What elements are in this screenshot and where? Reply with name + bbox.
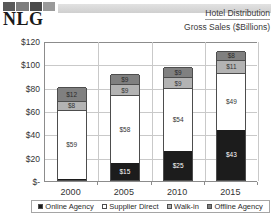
segment-value-label: $59 — [66, 141, 77, 148]
segment-value-label: $9 — [175, 80, 182, 87]
header-titles: Hotel Distribution Gross Sales ($Billion… — [184, 2, 270, 33]
chart-area: $-$20$40$60$80$100$120 $59$8$12$15$58$9$… — [0, 30, 273, 198]
segment-value-label: $54 — [173, 116, 184, 123]
bar-segment-online-agency-2005[interactable]: $15 — [111, 163, 139, 181]
bar-segment-supplier-direct-2005[interactable]: $58 — [111, 95, 139, 163]
y-tick-label: $120 — [0, 38, 40, 47]
plot-area: $59$8$12$15$58$9$9$25$54$9$9$43$49$11$8 — [44, 42, 257, 182]
legend-item-online[interactable]: Online Agency — [38, 203, 93, 211]
chart-legend: Online AgencySupplier DirectWalk-inOffli… — [31, 200, 270, 213]
segment-value-label: $11 — [226, 63, 236, 70]
y-tick-label: $60 — [0, 108, 40, 117]
v-gridline — [205, 42, 206, 181]
bar-segment-offline-agency-2015[interactable]: $8 — [217, 51, 245, 60]
segment-value-label: $49 — [226, 98, 237, 105]
segment-value-label: $25 — [173, 162, 184, 169]
bar-segment-walk-in-2005[interactable]: $9 — [111, 84, 139, 95]
bar-2005[interactable]: $15$58$9$9 — [110, 75, 140, 181]
segment-value-label: $58 — [119, 126, 130, 133]
bar-segment-supplier-direct-2000[interactable]: $59 — [58, 110, 86, 179]
y-tick-label: $- — [0, 178, 40, 187]
legend-swatch-supplier-icon — [102, 204, 107, 209]
y-tick-label: $80 — [0, 85, 40, 94]
x-tick-mark — [97, 182, 98, 185]
segment-value-label: $9 — [121, 87, 128, 94]
bar-segment-walk-in-2015[interactable]: $11 — [217, 60, 245, 73]
x-tick-label-2015: 2015 — [200, 187, 260, 197]
x-tick-label-2000: 2000 — [41, 187, 101, 197]
x-tick-label-2010: 2010 — [147, 187, 207, 197]
bar-segment-supplier-direct-2010[interactable]: $54 — [164, 88, 192, 151]
legend-item-supplier[interactable]: Supplier Direct — [102, 203, 158, 211]
nlg-logo: NLG — [3, 2, 59, 29]
v-gridline — [152, 42, 153, 181]
segment-value-label: $8 — [68, 102, 75, 109]
segment-value-label: $43 — [226, 151, 237, 158]
legend-swatch-walkin-icon — [167, 204, 172, 209]
legend-label: Walk-in — [174, 203, 199, 211]
segment-value-label: $15 — [119, 168, 130, 175]
v-gridline — [258, 42, 259, 181]
segment-value-label: $12 — [66, 91, 77, 98]
segment-value-label: $8 — [228, 52, 235, 59]
bar-2015[interactable]: $43$49$11$8 — [216, 52, 246, 182]
bar-segment-walk-in-2000[interactable]: $8 — [58, 101, 86, 110]
bar-2000[interactable]: $59$8$12 — [57, 88, 87, 181]
y-tick-label: $100 — [0, 61, 40, 70]
bar-segment-walk-in-2010[interactable]: $9 — [164, 77, 192, 88]
segment-value-label: $9 — [121, 76, 128, 83]
legend-item-walkin[interactable]: Walk-in — [167, 203, 199, 211]
x-tick-mark — [204, 182, 205, 185]
legend-swatch-offline-icon — [207, 204, 212, 209]
v-gridline — [98, 42, 99, 181]
x-tick-mark — [257, 182, 258, 185]
x-tick-label-2005: 2005 — [94, 187, 154, 197]
bar-segment-supplier-direct-2015[interactable]: $49 — [217, 73, 245, 130]
page-header: NLG Hotel Distribution Gross Sales ($Bil… — [0, 0, 273, 30]
chart-screenshot: NLG Hotel Distribution Gross Sales ($Bil… — [0, 0, 273, 220]
x-tick-mark — [151, 182, 152, 185]
logo-wordmark: NLG — [3, 10, 44, 28]
y-tick-label: $40 — [0, 131, 40, 140]
legend-item-offline[interactable]: Offline Agency — [207, 203, 262, 211]
legend-swatch-online-icon — [38, 204, 43, 209]
bar-segment-online-agency-2010[interactable]: $25 — [164, 151, 192, 180]
bar-segment-online-agency-2015[interactable]: $43 — [217, 130, 245, 180]
y-tick-label: $20 — [0, 155, 40, 164]
legend-label: Supplier Direct — [109, 203, 158, 211]
bar-2010[interactable]: $25$54$9$9 — [163, 68, 193, 181]
legend-label: Offline Agency — [214, 203, 262, 211]
bar-segment-online-agency-2000[interactable] — [58, 179, 86, 180]
bar-segment-offline-agency-2000[interactable]: $12 — [58, 87, 86, 101]
legend-label: Online Agency — [45, 203, 93, 211]
strip-cell-4 — [43, 2, 55, 11]
page-title: Hotel Distribution — [205, 8, 270, 20]
bar-segment-offline-agency-2005[interactable]: $9 — [111, 74, 139, 85]
segment-value-label: $9 — [175, 69, 182, 76]
bar-segment-offline-agency-2010[interactable]: $9 — [164, 67, 192, 78]
